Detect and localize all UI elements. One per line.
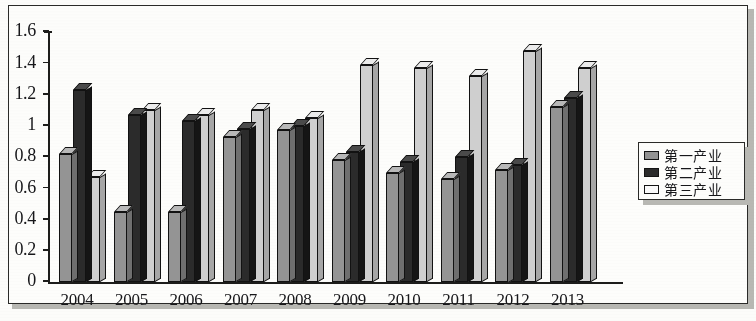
bar-side [318,114,324,282]
bar-side [209,111,215,282]
legend-item-secondary-industry[interactable]: 第二产业 [644,164,740,180]
bar-group [386,32,434,282]
bar-side [359,149,365,282]
bar-group [441,32,489,282]
bar-2009-series1[interactable] [332,160,345,282]
bar-2005-series1[interactable] [114,212,127,282]
legend-item-primary-industry[interactable]: 第一产业 [644,147,740,163]
bar-side [454,175,460,282]
bar-side [127,208,133,282]
legend-item-tertiary-industry[interactable]: 第三产业 [644,181,740,197]
bar-2012-series1[interactable] [495,170,508,283]
bar-side [427,64,433,282]
bar-side [155,107,161,282]
bar-side [264,107,270,282]
legend-label-tertiary-industry: 第三产业 [664,179,722,199]
bar-side [86,86,92,282]
bar-side [304,122,310,282]
bar-side [181,208,187,282]
y-tick-label: 0 [27,271,36,289]
plot-area: 00.20.40.60.811.21.41.6 2004200520062007… [48,27,623,289]
bar-side [250,125,256,282]
bar-side [141,111,147,282]
bar-side [399,169,405,282]
bar-side [100,174,106,282]
bar-group [495,32,543,282]
bar-side [563,104,569,282]
bar-face [386,173,399,282]
bar-2013-series1[interactable] [550,107,563,282]
x-tick-label: 2004 [49,290,105,310]
bar-face [332,160,345,282]
bar-side [536,47,542,282]
y-tick-label: 1.2 [14,84,36,102]
y-tick-label: 0.6 [14,177,36,195]
bar-side [72,150,78,282]
bar-side [591,64,597,282]
legend-swatch-tertiary-industry [644,185,659,194]
bar-side [290,127,296,282]
bar-2010-series1[interactable] [386,173,399,282]
bar-group [168,32,216,282]
bar-face [168,212,181,282]
bar-side [482,72,488,282]
x-tick-label: 2006 [158,290,214,310]
bar-2008-series1[interactable] [277,130,290,282]
bar-side [195,118,201,282]
bar-2006-series1[interactable] [168,212,181,282]
bar-2004-series1[interactable] [59,154,72,282]
bar-side [508,166,514,282]
x-tick-label: 2010 [376,290,432,310]
bar-group [332,32,380,282]
x-tick-label: 2005 [104,290,160,310]
x-tick-label: 2011 [431,290,487,310]
y-tick-label: 0.8 [14,146,36,164]
bar-group [114,32,162,282]
y-tick-label: 1.4 [14,52,36,70]
bar-face [441,179,454,282]
legend-swatch-secondary-industry [644,168,659,177]
bar-group [277,32,325,282]
bar-face [277,130,290,282]
bar-2007-series1[interactable] [223,137,236,282]
bar-face [223,137,236,282]
x-tick-label: 2012 [485,290,541,310]
bar-chart: 00.20.40.60.811.21.41.6 2004200520062007… [0,0,756,321]
bar-side [345,157,351,282]
bar-face [550,107,563,282]
y-tick-label: 0.2 [14,240,36,258]
x-tick-label: 2013 [540,290,596,310]
bar-2011-series1[interactable] [441,179,454,282]
bar-group [223,32,271,282]
x-tick-label: 2009 [322,290,378,310]
bar-group [59,32,107,282]
x-tick-label: 2007 [213,290,269,310]
bar-side [522,161,528,282]
y-tick-label: 1.6 [14,21,36,39]
y-tick-label: 0.4 [14,209,36,227]
y-tick-label: 1 [27,115,36,133]
x-axis-labels: 2004200520062007200820092010201120122013 [48,289,623,315]
bar-side [577,94,583,282]
x-tick-label: 2008 [267,290,323,310]
bar-side [413,158,419,282]
bar-side [373,61,379,282]
bar-group [550,32,598,282]
bar-face [59,154,72,282]
bar-face [495,170,508,283]
bar-side [468,154,474,282]
bar-face [114,212,127,282]
bars-layer [48,27,623,289]
chart-legend: 第一产业 第二产业 第三产业 [638,142,745,200]
legend-swatch-primary-industry [644,151,659,160]
bar-side [236,133,242,282]
